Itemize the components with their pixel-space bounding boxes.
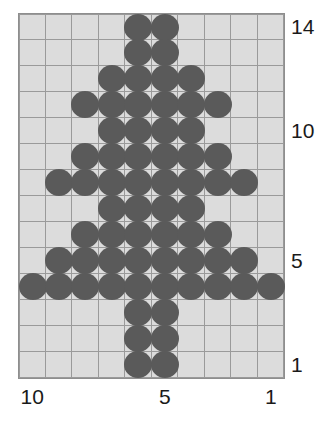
pattern-cell[interactable] — [125, 118, 152, 144]
pattern-cell[interactable] — [99, 170, 126, 196]
pattern-cell[interactable] — [99, 248, 126, 274]
pattern-cell[interactable] — [258, 326, 285, 352]
pattern-cell[interactable] — [125, 170, 152, 196]
pattern-cell[interactable] — [72, 196, 99, 222]
pattern-cell[interactable] — [19, 300, 46, 326]
pattern-cell[interactable] — [19, 196, 46, 222]
pattern-cell[interactable] — [152, 300, 179, 326]
pattern-cell[interactable] — [46, 40, 73, 66]
pattern-cell[interactable] — [231, 40, 258, 66]
pattern-cell[interactable] — [205, 170, 232, 196]
pattern-cell[interactable] — [231, 66, 258, 92]
pattern-cell[interactable] — [178, 248, 205, 274]
pattern-cell[interactable] — [231, 14, 258, 40]
pattern-cell[interactable] — [46, 170, 73, 196]
pattern-cell[interactable] — [125, 274, 152, 300]
pattern-cell[interactable] — [258, 40, 285, 66]
pattern-cell[interactable] — [258, 274, 285, 300]
pattern-cell[interactable] — [19, 222, 46, 248]
pattern-cell[interactable] — [178, 118, 205, 144]
pattern-cell[interactable] — [152, 66, 179, 92]
pattern-cell[interactable] — [258, 170, 285, 196]
pattern-cell[interactable] — [46, 274, 73, 300]
pattern-cell[interactable] — [205, 300, 232, 326]
pattern-cell[interactable] — [231, 92, 258, 118]
pattern-cell[interactable] — [46, 144, 73, 170]
pattern-cell[interactable] — [258, 196, 285, 222]
pattern-cell[interactable] — [205, 326, 232, 352]
pattern-cell[interactable] — [152, 92, 179, 118]
pattern-cell[interactable] — [46, 248, 73, 274]
pattern-grid[interactable] — [19, 14, 284, 378]
pattern-cell[interactable] — [258, 248, 285, 274]
pattern-cell[interactable] — [72, 92, 99, 118]
pattern-cell[interactable] — [258, 300, 285, 326]
pattern-cell[interactable] — [178, 170, 205, 196]
pattern-cell[interactable] — [99, 14, 126, 40]
pattern-cell[interactable] — [125, 92, 152, 118]
pattern-cell[interactable] — [205, 92, 232, 118]
pattern-cell[interactable] — [205, 144, 232, 170]
pattern-cell[interactable] — [72, 248, 99, 274]
pattern-cell[interactable] — [125, 14, 152, 40]
pattern-cell[interactable] — [125, 144, 152, 170]
pattern-cell[interactable] — [178, 274, 205, 300]
pattern-cell[interactable] — [46, 352, 73, 378]
pattern-cell[interactable] — [19, 274, 46, 300]
pattern-cell[interactable] — [99, 40, 126, 66]
pattern-cell[interactable] — [46, 326, 73, 352]
pattern-cell[interactable] — [231, 118, 258, 144]
pattern-cell[interactable] — [125, 326, 152, 352]
pattern-cell[interactable] — [152, 196, 179, 222]
pattern-cell[interactable] — [99, 118, 126, 144]
pattern-cell[interactable] — [231, 326, 258, 352]
pattern-cell[interactable] — [46, 222, 73, 248]
pattern-cell[interactable] — [205, 274, 232, 300]
pattern-cell[interactable] — [19, 352, 46, 378]
pattern-cell[interactable] — [231, 248, 258, 274]
pattern-cell[interactable] — [99, 274, 126, 300]
pattern-cell[interactable] — [152, 40, 179, 66]
pattern-cell[interactable] — [152, 352, 179, 378]
pattern-cell[interactable] — [125, 222, 152, 248]
pattern-cell[interactable] — [205, 118, 232, 144]
pattern-cell[interactable] — [205, 222, 232, 248]
pattern-cell[interactable] — [125, 248, 152, 274]
pattern-cell[interactable] — [125, 352, 152, 378]
pattern-cell[interactable] — [152, 222, 179, 248]
pattern-cell[interactable] — [19, 14, 46, 40]
pattern-cell[interactable] — [19, 144, 46, 170]
pattern-cell[interactable] — [152, 326, 179, 352]
pattern-cell[interactable] — [19, 118, 46, 144]
pattern-cell[interactable] — [178, 66, 205, 92]
pattern-cell[interactable] — [152, 170, 179, 196]
pattern-cell[interactable] — [125, 66, 152, 92]
pattern-cell[interactable] — [205, 352, 232, 378]
pattern-cell[interactable] — [205, 248, 232, 274]
pattern-cell[interactable] — [231, 144, 258, 170]
pattern-cell[interactable] — [231, 196, 258, 222]
pattern-cell[interactable] — [46, 196, 73, 222]
pattern-cell[interactable] — [72, 326, 99, 352]
pattern-cell[interactable] — [99, 144, 126, 170]
pattern-cell[interactable] — [258, 222, 285, 248]
pattern-cell[interactable] — [19, 248, 46, 274]
pattern-cell[interactable] — [231, 300, 258, 326]
pattern-cell[interactable] — [178, 144, 205, 170]
pattern-cell[interactable] — [19, 40, 46, 66]
pattern-cell[interactable] — [99, 352, 126, 378]
pattern-cell[interactable] — [178, 300, 205, 326]
pattern-cell[interactable] — [99, 66, 126, 92]
pattern-cell[interactable] — [258, 66, 285, 92]
pattern-cell[interactable] — [19, 92, 46, 118]
pattern-cell[interactable] — [46, 14, 73, 40]
pattern-cell[interactable] — [205, 40, 232, 66]
pattern-cell[interactable] — [178, 40, 205, 66]
pattern-cell[interactable] — [205, 196, 232, 222]
pattern-cell[interactable] — [99, 92, 126, 118]
pattern-cell[interactable] — [99, 222, 126, 248]
pattern-cell[interactable] — [205, 14, 232, 40]
pattern-cell[interactable] — [72, 144, 99, 170]
pattern-cell[interactable] — [178, 14, 205, 40]
pattern-cell[interactable] — [231, 352, 258, 378]
